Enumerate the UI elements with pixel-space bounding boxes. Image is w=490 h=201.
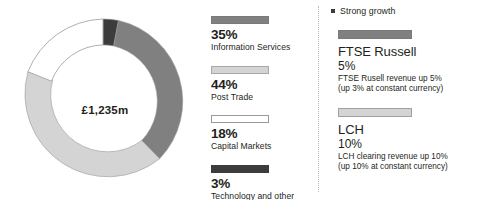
- growth-title-lch: LCH: [338, 122, 488, 137]
- legend-item-technology-and-other[interactable]: 3% Technology and other: [211, 165, 311, 201]
- legend-item-post-trade[interactable]: 44% Post Trade: [211, 66, 311, 103]
- chart-legend: 35% Information Services 44% Post Trade …: [211, 16, 311, 200]
- growth-detail-lch-line1: LCH clearing revenue up 10%: [338, 152, 488, 162]
- legend-swatch-technology-and-other: [211, 165, 269, 173]
- growth-detail-lch-line2: (up 10% at constant currency): [338, 162, 488, 172]
- infographic-canvas: £1,235m 35% Information Services 44% Pos…: [0, 0, 490, 200]
- donut-slice-capital-markets[interactable]: [28, 19, 103, 81]
- legend-label-information-services: Information Services: [211, 42, 311, 53]
- donut-chart: £1,235m: [12, 12, 198, 192]
- donut-slice-post-trade[interactable]: [25, 72, 160, 177]
- legend-label-technology-and-other: Technology and other: [211, 191, 311, 201]
- panel-header: Strong growth: [330, 6, 488, 16]
- legend-item-capital-markets[interactable]: 18% Capital Markets: [211, 115, 311, 152]
- growth-swatch-ftse-russell: [338, 30, 412, 39]
- legend-swatch-post-trade: [211, 66, 269, 74]
- legend-value-post-trade: 44%: [211, 78, 311, 92]
- strong-growth-panel: Strong growth FTSE Russell 5% FTSE Rusel…: [330, 6, 488, 186]
- legend-swatch-capital-markets: [211, 115, 269, 123]
- growth-swatch-lch: [338, 108, 412, 117]
- legend-label-post-trade: Post Trade: [211, 92, 311, 103]
- legend-value-information-services: 35%: [211, 28, 311, 42]
- donut-chart-svg: [12, 12, 198, 192]
- growth-title-ftse-russell: FTSE Russell: [338, 44, 488, 59]
- growth-detail-ftse-russell-line1: FTSE Rusell revenue up 5%: [338, 74, 488, 84]
- growth-block-lch[interactable]: LCH 10% LCH clearing revenue up 10% (up …: [330, 108, 488, 173]
- donut-center-total: £1,235m: [12, 104, 198, 116]
- legend-label-capital-markets: Capital Markets: [211, 141, 311, 152]
- growth-percent-lch: 10%: [338, 137, 488, 151]
- donut-slice-information-services[interactable]: [114, 20, 183, 158]
- vertical-dotted-divider: [318, 6, 320, 192]
- square-bullet-icon: [331, 9, 335, 13]
- growth-block-ftse-russell[interactable]: FTSE Russell 5% FTSE Rusell revenue up 5…: [330, 30, 488, 95]
- growth-detail-ftse-russell-line2: (up 3% at constant currency): [338, 84, 488, 94]
- legend-value-technology-and-other: 3%: [211, 177, 311, 191]
- growth-percent-ftse-russell: 5%: [338, 59, 488, 73]
- legend-value-capital-markets: 18%: [211, 127, 311, 141]
- panel-header-label: Strong growth: [340, 6, 395, 16]
- legend-swatch-information-services: [211, 16, 269, 24]
- legend-item-information-services[interactable]: 35% Information Services: [211, 16, 311, 53]
